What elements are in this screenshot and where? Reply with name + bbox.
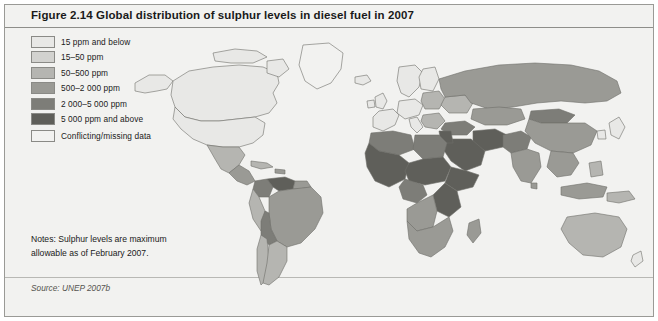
region-mongolia <box>529 109 575 123</box>
region-balkans <box>421 113 445 129</box>
legend-swatch <box>31 98 55 110</box>
region-alaska <box>135 75 173 93</box>
figure-title-bar: Figure 2.14 Global distribution of sulph… <box>5 5 653 28</box>
region-madagascar <box>467 219 481 243</box>
legend-label: 15–50 ppm <box>61 52 103 62</box>
region-philippines <box>589 161 603 177</box>
region-new-guinea <box>607 191 635 203</box>
region-new-zealand <box>631 251 643 267</box>
region-southeast-asia <box>547 151 579 177</box>
legend-swatch <box>31 113 55 125</box>
region-libya-egypt <box>413 135 447 159</box>
legend-label: 2 000–5 000 ppm <box>61 99 127 109</box>
legend-swatch <box>31 67 55 79</box>
region-ireland <box>367 100 375 108</box>
region-sri-lanka <box>531 183 537 189</box>
legend-swatch <box>31 130 55 142</box>
region-japan <box>609 117 625 139</box>
region-cuba <box>251 161 273 169</box>
region-kazakhstan <box>471 107 525 125</box>
legend-label: 500–2 000 ppm <box>61 83 120 93</box>
region-scandinavia <box>397 65 423 97</box>
region-sahel <box>405 157 451 185</box>
region-indonesia <box>561 183 607 199</box>
region-poland-baltics <box>421 91 445 109</box>
world-map <box>127 31 647 299</box>
region-canadian-arctic <box>213 49 267 63</box>
region-italy <box>409 117 423 133</box>
region-baffin-island <box>267 59 289 77</box>
region-china <box>525 119 597 153</box>
legend-swatch <box>31 36 55 48</box>
figure-title: Figure 2.14 Global distribution of sulph… <box>31 9 414 21</box>
figure-panel: Figure 2.14 Global distribution of sulph… <box>4 4 654 317</box>
region-greenland <box>299 43 343 89</box>
region-korea <box>597 130 606 139</box>
legend-swatch <box>31 51 55 63</box>
region-germany-central-europe <box>397 99 423 119</box>
legend-label: 15 ppm and below <box>61 37 130 47</box>
region-india <box>511 149 541 183</box>
region-hispaniola <box>275 169 285 174</box>
figure-source: Source: UNEP 2007b <box>31 283 110 293</box>
region-brazil <box>269 187 323 247</box>
legend-swatch <box>31 82 55 94</box>
region-finland <box>419 67 439 91</box>
region-united-kingdom <box>375 93 387 109</box>
region-australia <box>561 213 627 257</box>
region-france-iberia <box>373 109 399 131</box>
region-canada <box>171 65 279 121</box>
legend-label: 50–500 ppm <box>61 68 108 78</box>
region-iceland <box>355 75 371 85</box>
